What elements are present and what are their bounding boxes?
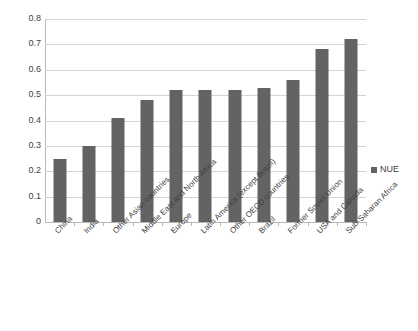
- x-axis-category-label: China: [53, 214, 74, 235]
- x-axis-tick-mark: [133, 222, 134, 226]
- x-axis-tick-mark: [191, 222, 192, 226]
- x-axis-tick-mark: [220, 222, 221, 226]
- x-axis-tick-mark: [308, 222, 309, 226]
- x-axis-category-label: India: [82, 217, 101, 236]
- x-axis-tick-mark: [278, 222, 279, 226]
- x-axis-labels: ChinaIndiaOther Asian countriesMiddle Ea…: [0, 0, 418, 331]
- legend-square-marker-icon: [371, 167, 377, 173]
- chart-legend: NUE: [371, 165, 399, 174]
- x-axis-category-label: Former Soviet Union: [286, 177, 344, 235]
- x-axis-tick-mark: [74, 222, 75, 226]
- x-axis-tick-mark: [249, 222, 250, 226]
- x-axis-category-label: Brazil: [257, 215, 278, 236]
- x-axis-tick-mark: [162, 222, 163, 226]
- x-axis-category-label: Sub-Saharan Africa: [344, 180, 399, 235]
- x-axis-tick-mark: [103, 222, 104, 226]
- bar-chart: 0.80.70.60.50.40.30.20.10 ChinaIndiaOthe…: [0, 0, 418, 331]
- x-axis-tick-mark: [337, 222, 338, 226]
- legend-entry-label: NUE: [380, 165, 399, 174]
- x-axis-tick-mark: [366, 222, 367, 226]
